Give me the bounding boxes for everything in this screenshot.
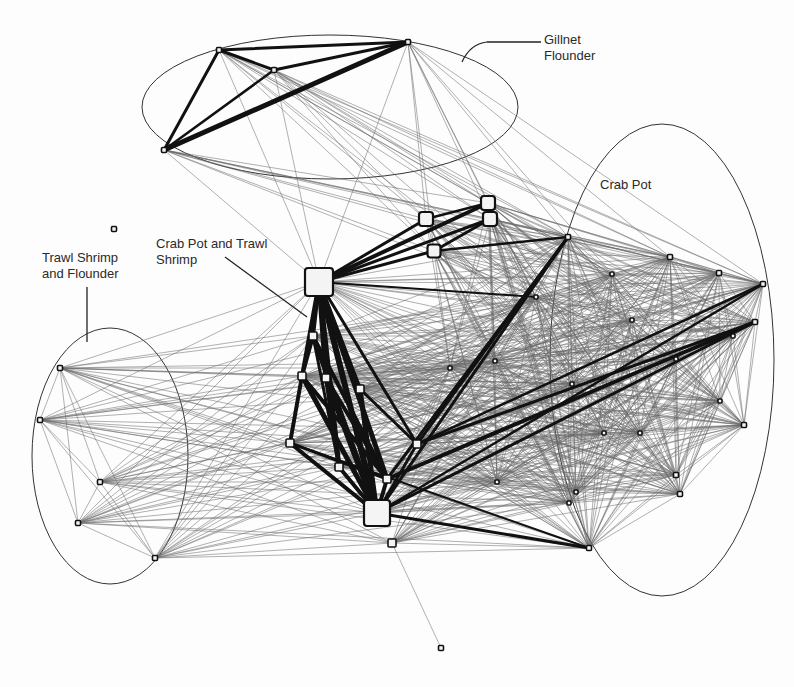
- node-m6: [335, 463, 343, 471]
- heavy-edge: [164, 42, 408, 150]
- node-c3: [717, 271, 722, 276]
- node-g1: [217, 48, 222, 53]
- node-c10: [674, 357, 678, 361]
- node-c23: [448, 366, 452, 370]
- edge: [40, 368, 60, 420]
- label-crab-pot-trawl-shrimp: Crab Pot and Trawl Shrimp: [156, 236, 267, 268]
- node-g4: [162, 148, 167, 153]
- edge: [744, 322, 755, 425]
- node-c8: [753, 320, 758, 325]
- node-m4: [356, 385, 364, 393]
- node-c7: [630, 318, 634, 322]
- node-c13: [742, 423, 747, 428]
- heavy-edge: [319, 219, 490, 282]
- edge: [219, 50, 568, 237]
- node-t3: [98, 480, 103, 485]
- node-t1: [58, 366, 63, 371]
- node-m2: [298, 372, 306, 380]
- node-c21: [587, 546, 592, 551]
- network-graph: [0, 0, 794, 687]
- node-c20: [567, 501, 571, 505]
- node-c17: [678, 492, 683, 497]
- node-h2: [364, 500, 390, 526]
- label-trawl-shrimp-flounder: Trawl Shrimp and Flounder: [42, 250, 119, 282]
- node-g3: [406, 40, 411, 45]
- edge: [589, 475, 676, 548]
- node-c6: [534, 295, 538, 299]
- edge: [40, 420, 589, 548]
- edge: [78, 523, 155, 558]
- node-m7: [383, 475, 391, 483]
- node-h6: [428, 245, 441, 258]
- edge: [219, 50, 490, 219]
- node-c2: [668, 255, 673, 260]
- label-crab-pot: Crab Pot: [600, 177, 651, 193]
- edge: [408, 42, 490, 219]
- node-t2: [38, 418, 43, 423]
- node-m1: [309, 332, 317, 340]
- edge: [60, 368, 78, 523]
- node-t4: [76, 521, 81, 526]
- node-c11: [570, 382, 574, 386]
- label-gillnet-flounder: Gillnet Flounder: [544, 32, 595, 64]
- node-m5: [286, 439, 294, 447]
- edge: [40, 376, 302, 420]
- edge: [164, 150, 426, 219]
- heavy-edge: [164, 50, 219, 150]
- node-iso2: [439, 646, 444, 651]
- edge: [60, 282, 319, 368]
- edge: [392, 543, 441, 648]
- edge: [274, 70, 434, 251]
- heavy-edge: [290, 376, 302, 443]
- node-h1: [305, 268, 333, 296]
- node-c12: [718, 399, 722, 403]
- node-m8: [413, 440, 421, 448]
- node-t5: [153, 556, 158, 561]
- node-c16: [674, 473, 679, 478]
- edge: [60, 336, 313, 368]
- node-h4: [481, 196, 495, 210]
- node-c1: [566, 235, 571, 240]
- node-m9: [388, 539, 396, 547]
- node-h5: [483, 212, 497, 226]
- node-c22: [493, 359, 497, 363]
- edge: [274, 70, 488, 203]
- node-c15: [638, 431, 642, 435]
- edge: [100, 282, 319, 482]
- network-diagram: Gillnet Flounder Crab Pot Trawl Shrimp a…: [0, 0, 794, 687]
- node-c19: [495, 480, 499, 484]
- edge: [589, 494, 680, 548]
- node-g2: [272, 68, 277, 73]
- node-c5: [610, 272, 614, 276]
- edge: [488, 203, 676, 359]
- node-c14: [602, 431, 606, 435]
- edge: [40, 420, 155, 558]
- node-iso1: [112, 227, 117, 232]
- leader-curve-gillnet: [462, 42, 487, 62]
- node-c18: [574, 490, 578, 494]
- node-m3: [322, 374, 330, 382]
- node-c4: [761, 282, 766, 287]
- node-h3: [419, 212, 433, 226]
- node-c9: [731, 334, 735, 338]
